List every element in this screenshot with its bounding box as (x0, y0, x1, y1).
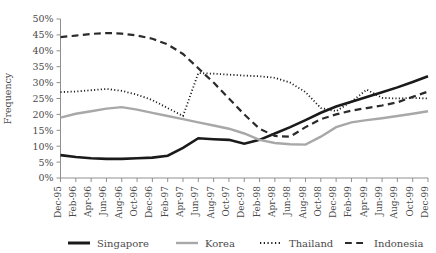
y-tick-label: 45% (32, 29, 53, 40)
chart-container: Frequency 0%5%10%15%20%25%30%35%40%45%50… (0, 0, 436, 253)
x-tick-label: Oct-98 (313, 186, 323, 217)
x-tick-label: Jun-98 (282, 186, 292, 217)
x-tick-label: Oct-97 (221, 186, 231, 217)
legend-label-indonesia: Indonesia (374, 238, 424, 249)
y-tick-label: 20% (32, 109, 53, 120)
y-tick-label: 30% (32, 77, 53, 88)
x-tick-label: Apr-96 (83, 186, 93, 218)
y-tick-label: 10% (32, 141, 53, 152)
y-tick-label: 5% (38, 157, 53, 168)
x-tick-label: Aug-99 (389, 186, 399, 220)
x-tick-label: Dec-98 (328, 186, 338, 218)
x-tick-label: Apr-97 (175, 186, 185, 218)
x-tick-label: Aug-97 (206, 186, 216, 220)
y-tick-label: 35% (32, 61, 53, 72)
x-tick-label: Aug-96 (114, 186, 124, 220)
x-tick-label: Aug-98 (298, 186, 308, 220)
y-tick-label: 15% (32, 125, 53, 136)
x-tick-label: Oct-99 (405, 186, 415, 217)
series-lines (61, 33, 429, 159)
x-tick-label: Dec-99 (420, 186, 430, 218)
legend-label-singapore: Singapore (97, 238, 149, 249)
y-axis: 0%5%10%15%20%25%30%35%40%45%50% (32, 13, 60, 183)
x-tick-label: Feb-96 (68, 186, 78, 218)
x-tick-label: Jun-96 (98, 186, 108, 217)
x-tick-label: Dec-96 (144, 186, 154, 218)
x-axis: Dec-95Feb-96Apr-96Jun-96Aug-96Oct-96Dec-… (53, 178, 431, 220)
series-line-singapore (61, 76, 429, 159)
x-tick-label: Dec-95 (53, 186, 63, 218)
series-line-korea (61, 107, 429, 145)
x-tick-label: Feb-98 (252, 186, 262, 218)
x-tick-label: Jun-99 (374, 186, 384, 217)
chart-legend: SingaporeKoreaThailandIndonesia (68, 238, 424, 249)
x-tick-label: Dec-97 (236, 186, 246, 218)
x-tick-label: Jun-97 (190, 186, 200, 217)
y-tick-label: 40% (32, 45, 53, 56)
x-tick-label: Apr-98 (267, 186, 277, 218)
y-tick-label: 50% (32, 13, 53, 24)
x-tick-label: Oct-96 (129, 186, 139, 217)
x-tick-label: Feb-99 (343, 186, 353, 218)
x-tick-label: Feb-97 (160, 186, 170, 218)
y-tick-label: 25% (32, 93, 53, 104)
series-line-indonesia (61, 33, 429, 137)
legend-label-korea: Korea (205, 238, 235, 249)
line-chart: Frequency 0%5%10%15%20%25%30%35%40%45%50… (0, 0, 436, 253)
x-tick-label: Apr-99 (359, 186, 369, 218)
y-axis-title: Frequency (2, 72, 13, 124)
y-axis-title-group: Frequency (2, 72, 13, 124)
y-tick-label: 0% (38, 172, 53, 183)
legend-label-thailand: Thailand (289, 238, 334, 249)
